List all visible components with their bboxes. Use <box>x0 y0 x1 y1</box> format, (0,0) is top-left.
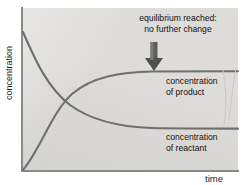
scan-artifact-mark <box>223 68 236 126</box>
product-series-label: concentration of product <box>166 76 218 98</box>
product-series-label-line-2: of product <box>166 87 218 98</box>
reactant-series-label-line-2: of reactant <box>166 143 218 154</box>
equilibrium-annotation-line-1: equilibrium reached: <box>126 13 230 24</box>
down-arrow <box>145 42 163 71</box>
product-series-label-line-1: concentration <box>166 76 218 87</box>
reactant-series-label-line-1: concentration <box>166 132 218 143</box>
equilibrium-annotation: equilibrium reached: no further change <box>126 13 230 35</box>
equilibrium-annotation-line-2: no further change <box>126 24 230 35</box>
reactant-series-label: concentration of reactant <box>166 132 218 154</box>
equilibrium-concentration-chart: concentration time equilibrium reached: … <box>0 0 242 185</box>
